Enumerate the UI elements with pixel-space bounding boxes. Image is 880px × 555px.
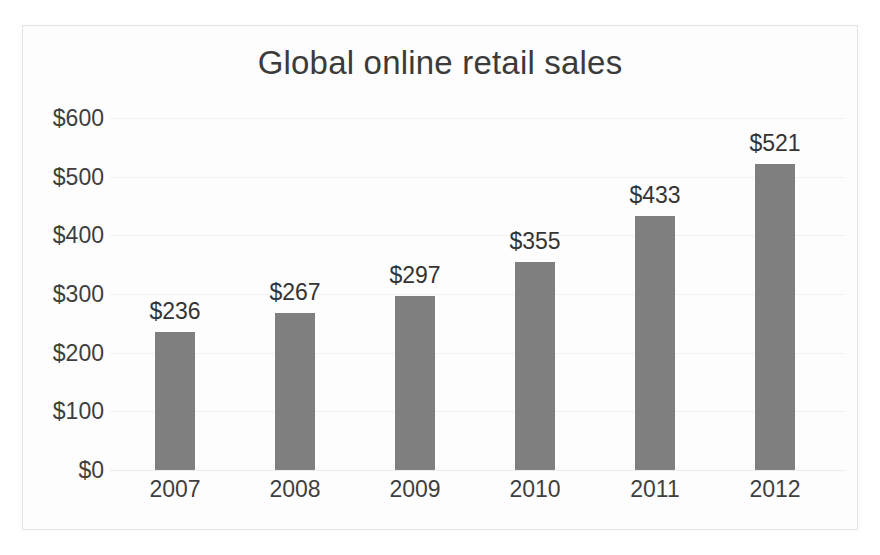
bar-value-label: $433: [629, 184, 680, 207]
plot-area: $236$267$297$355$433$521: [110, 118, 845, 470]
y-axis-tick-label: $400: [53, 224, 104, 247]
bar-group[interactable]: $297: [395, 118, 435, 470]
bar-group[interactable]: $267: [275, 118, 315, 470]
y-axis-tick-label: $300: [53, 283, 104, 306]
x-axis: 200720082009201020112012: [110, 478, 845, 512]
bar[interactable]: [155, 332, 195, 470]
bar-value-label: $297: [389, 264, 440, 287]
gridline: [110, 353, 845, 354]
x-axis-tick-label: 2011: [600, 478, 710, 501]
bar-group[interactable]: $433: [635, 118, 675, 470]
y-axis-tick-label: $200: [53, 341, 104, 364]
y-axis: $600$500$400$300$200$100$0: [26, 118, 104, 470]
gridline: [110, 118, 845, 119]
y-axis-tick-label: $0: [78, 459, 104, 482]
x-axis-tick-label: 2010: [480, 478, 590, 501]
bar[interactable]: [635, 216, 675, 470]
x-axis-tick-label: 2009: [360, 478, 470, 501]
chart-title: Global online retail sales: [22, 44, 858, 82]
gridline: [110, 411, 845, 412]
gridline: [110, 470, 845, 471]
x-axis-tick-label: 2008: [240, 478, 350, 501]
bar-value-label: $521: [749, 132, 800, 155]
gridline: [110, 177, 845, 178]
bar[interactable]: [275, 313, 315, 470]
bar-value-label: $267: [269, 281, 320, 304]
y-axis-tick-label: $500: [53, 165, 104, 188]
chart-figure: Global online retail sales $600$500$400$…: [0, 0, 880, 555]
bar[interactable]: [755, 164, 795, 470]
x-axis-tick-label: 2007: [120, 478, 230, 501]
bar-group[interactable]: $521: [755, 118, 795, 470]
bar-value-label: $355: [509, 230, 560, 253]
bar-group[interactable]: $236: [155, 118, 195, 470]
y-axis-tick-label: $100: [53, 400, 104, 423]
gridline: [110, 235, 845, 236]
bar[interactable]: [515, 262, 555, 470]
bar-value-label: $236: [149, 300, 200, 323]
bar-group[interactable]: $355: [515, 118, 555, 470]
gridline: [110, 294, 845, 295]
x-axis-tick-label: 2012: [720, 478, 830, 501]
bar[interactable]: [395, 296, 435, 470]
y-axis-tick-label: $600: [53, 107, 104, 130]
